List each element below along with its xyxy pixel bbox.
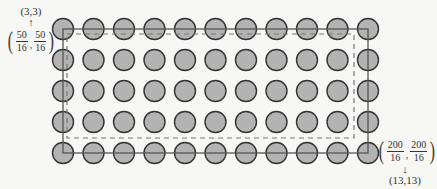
grid-circle [266, 50, 287, 71]
grid-circle [236, 112, 257, 133]
grid-circle [83, 50, 104, 71]
grid-circle [266, 81, 287, 102]
circle-grid [53, 19, 379, 164]
grid-circle [327, 112, 348, 133]
grid-circle [114, 81, 135, 102]
top-left-annotation: (3,3) ↑ ( 5016 , 5016 ) [2, 6, 60, 54]
bottom-right-annotation: ( 20016 , 20016 ) ↓ (13,13) [377, 138, 433, 186]
grid-circle [236, 81, 257, 102]
grid-circle [175, 81, 196, 102]
grid-circle [144, 81, 165, 102]
grid-circle [205, 81, 226, 102]
bottom-right-fraction: ( 20016 , 20016 ) [377, 138, 437, 164]
grid-circle [327, 81, 348, 102]
grid-circle [114, 50, 135, 71]
top-left-fraction: ( 5016 , 5016 ) [6, 28, 56, 54]
grid-circle [205, 50, 226, 71]
grid-circle [144, 112, 165, 133]
grid-circle [83, 81, 104, 102]
grid-circle [266, 112, 287, 133]
grid-circle [297, 81, 318, 102]
grid-circle [297, 112, 318, 133]
grid-circle [297, 50, 318, 71]
bottom-right-point: (13,13) [377, 175, 433, 186]
grid-circle [144, 50, 165, 71]
grid-circle [175, 112, 196, 133]
grid-circle [205, 112, 226, 133]
grid-circle [175, 50, 196, 71]
grid-circle [236, 50, 257, 71]
grid-circle [327, 50, 348, 71]
grid-circle [83, 112, 104, 133]
grid-circle [114, 112, 135, 133]
